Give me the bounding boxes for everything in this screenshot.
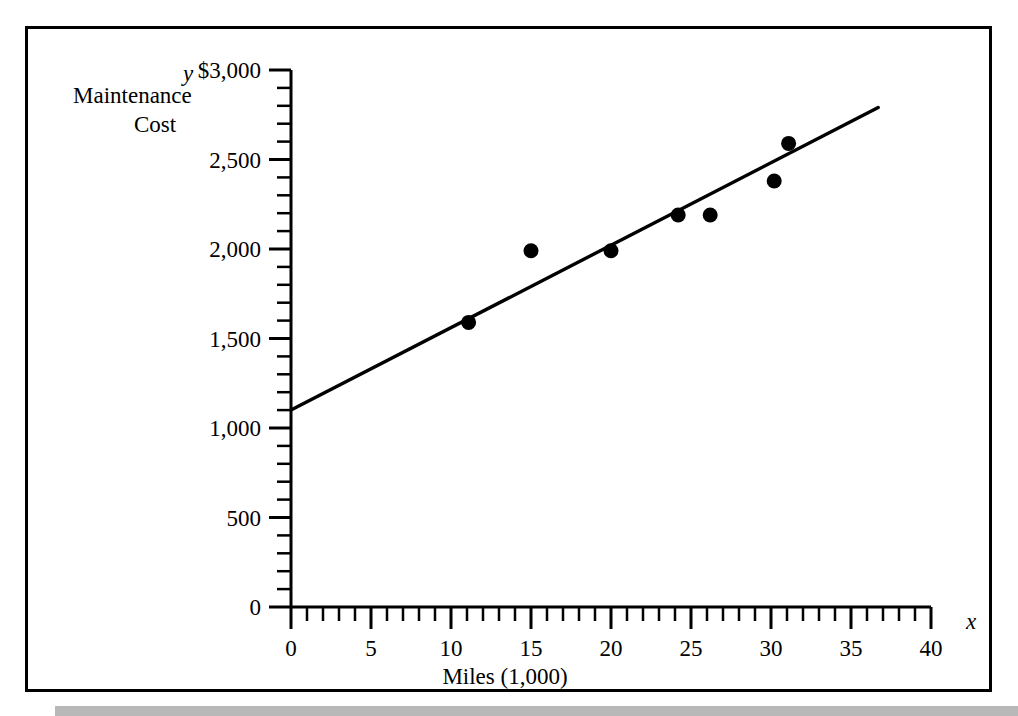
y-axis-title-line-1: Maintenance: [73, 83, 192, 108]
y-tick-label: 1,500: [209, 327, 261, 352]
data-point: [604, 243, 619, 258]
y-tick-label: 0: [250, 595, 262, 620]
data-points: [461, 136, 796, 330]
page-canvas: 05001,0001,5002,0002,500$3,000 051015202…: [0, 0, 1018, 716]
y-axis-title-line-2: Cost: [134, 112, 177, 137]
trendline: [291, 108, 878, 411]
page-footer-bar: [55, 706, 1018, 716]
scatter-plot: 05001,0001,5002,0002,500$3,000 051015202…: [28, 29, 989, 689]
data-point: [703, 207, 718, 222]
x-tick-label: 10: [440, 636, 463, 661]
regression-line: [291, 108, 878, 411]
x-tick-label: 25: [680, 636, 703, 661]
figure-border-box: 05001,0001,5002,0002,500$3,000 051015202…: [25, 26, 992, 692]
data-point: [461, 315, 476, 330]
y-axis: 05001,0001,5002,0002,500$3,000: [198, 58, 291, 620]
y-tick-label: $3,000: [198, 58, 261, 83]
y-tick-label: 1,000: [209, 416, 261, 441]
x-tick-label: 5: [365, 636, 377, 661]
y-tick-label: 500: [227, 506, 262, 531]
x-tick-label: 30: [760, 636, 783, 661]
y-tick-label: 2,500: [209, 148, 261, 173]
x-tick-label: 0: [285, 636, 297, 661]
x-axis-title: Miles (1,000): [442, 664, 567, 689]
data-point: [671, 207, 686, 222]
data-point: [524, 243, 539, 258]
data-point: [781, 136, 796, 151]
x-tick-label: 15: [520, 636, 543, 661]
x-axis-symbol: x: [965, 609, 977, 634]
x-axis: 0510152025303540: [285, 607, 942, 661]
x-tick-label: 20: [600, 636, 623, 661]
data-point: [767, 173, 782, 188]
y-tick-label: 2,000: [209, 237, 261, 262]
x-tick-label: 35: [840, 636, 863, 661]
x-tick-label: 40: [920, 636, 943, 661]
